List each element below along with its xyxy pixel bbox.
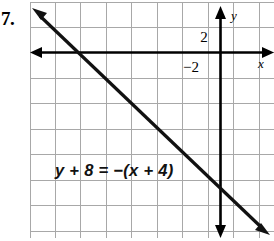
worksheet-problem-graph: 7. bbox=[0, 0, 274, 241]
y-axis-label: y bbox=[229, 8, 237, 23]
y-tick-label-2: 2 bbox=[200, 29, 208, 45]
x-tick-label-neg2: −2 bbox=[183, 59, 199, 75]
graph-svg: y x 2 −2 bbox=[30, 2, 274, 238]
coordinate-graph: y x 2 −2 bbox=[30, 2, 274, 238]
equation-label: y + 8 = −(x + 4) bbox=[55, 161, 174, 180]
problem-number: 7. bbox=[1, 8, 14, 30]
x-axis-label: x bbox=[257, 56, 264, 71]
